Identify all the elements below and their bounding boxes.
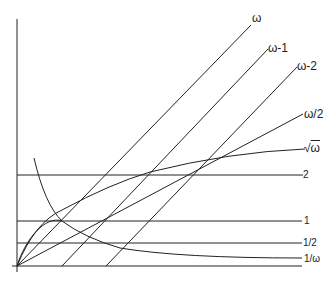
label-inverse-omega: 1/ω xyxy=(304,254,320,264)
line-omega-minus-1 xyxy=(62,49,268,266)
label-omega-minus-2: ω-2 xyxy=(297,61,317,71)
label-two: 2 xyxy=(303,170,309,180)
label-omega-half: ω/2 xyxy=(304,109,323,119)
label-omega-minus-1: ω-1 xyxy=(268,43,288,53)
label-half: 1/2 xyxy=(303,238,317,248)
label-sqrt-omega: √ω xyxy=(304,143,320,153)
label-omega: ω xyxy=(252,13,261,23)
line-omega xyxy=(17,25,251,266)
label-one: 1 xyxy=(304,216,310,226)
line-omega-minus-2 xyxy=(106,67,297,266)
curve-sqrt-omega xyxy=(17,149,305,266)
